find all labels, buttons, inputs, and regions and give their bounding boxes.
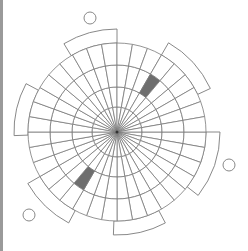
circle-marker-icon <box>23 209 35 221</box>
circle-marker-icon <box>84 12 96 24</box>
board-center-hub <box>116 131 119 134</box>
circular-puzzle-board[interactable] <box>0 0 248 251</box>
circle-marker-icon <box>223 159 235 171</box>
